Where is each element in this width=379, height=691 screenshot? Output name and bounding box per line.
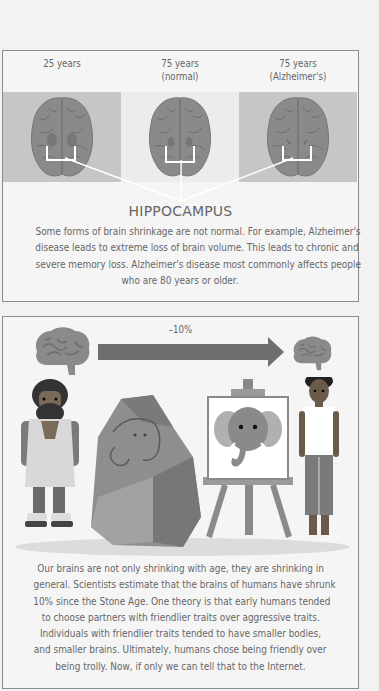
evolutionary-shrinkage-panel: –10% bbox=[2, 316, 359, 689]
modern-person-icon bbox=[299, 377, 339, 535]
caveman-icon bbox=[21, 379, 79, 527]
brain-small-icon bbox=[290, 335, 334, 373]
brain-large-icon bbox=[31, 325, 93, 379]
evolution-description: Our brains are not only shrinking with a… bbox=[9, 560, 352, 674]
hippocampus-callout-lines bbox=[3, 51, 360, 211]
cave-rock-icon bbox=[91, 395, 201, 547]
stone-age-to-modern-illustration bbox=[3, 377, 358, 557]
alzheimers-description: Some forms of brain shrinkage are not no… bbox=[9, 223, 352, 288]
easel-icon bbox=[203, 379, 293, 537]
arrow-right-icon bbox=[98, 344, 268, 360]
arrow-head bbox=[268, 337, 284, 367]
hippocampus-label: HIPPOCAMPUS bbox=[3, 203, 358, 219]
brain-aging-comparison-panel: 25 years 75 years (normal) 75 years (Alz… bbox=[2, 50, 359, 302]
